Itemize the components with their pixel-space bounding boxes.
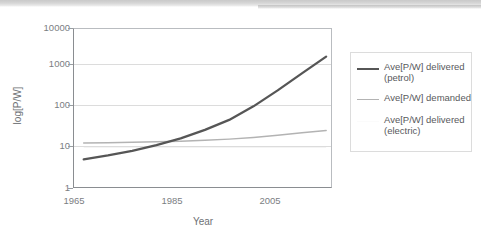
series-line-petrol <box>84 57 326 160</box>
y-tick-mark-1 <box>68 188 73 189</box>
x-tick-label-1965: 1965 <box>44 195 104 206</box>
y-tick-label-10: 10 <box>30 141 70 151</box>
legend-label-demanded: Ave[P/W] demanded <box>384 92 471 103</box>
legend-item-petrol: Ave[P/W] delivered (petrol) <box>357 61 471 83</box>
chart-legend: Ave[P/W] delivered (petrol) Ave[P/W] dem… <box>350 52 472 152</box>
y-axis-title: log[P/W] <box>12 76 23 136</box>
y-tick-label-1000: 1000 <box>30 59 70 69</box>
legend-swatch-petrol-icon <box>357 64 379 74</box>
y-tick-label-100: 100 <box>30 100 70 110</box>
series-line-demanded <box>84 130 326 143</box>
top-edge-band-secondary <box>258 5 481 9</box>
legend-swatch-demanded-icon <box>357 95 379 105</box>
plot-area <box>73 28 332 188</box>
y-tick-label-10000: 10000 <box>30 23 70 33</box>
legend-item-demanded: Ave[P/W] demanded <box>357 92 471 105</box>
x-axis-title: Year <box>143 216 263 227</box>
legend-swatch-electric-icon <box>357 117 379 127</box>
chart-screenshot: 10000 1000 100 10 1 log[P/W] 1965 1985 2… <box>0 0 481 236</box>
legend-label-petrol: Ave[P/W] delivered (petrol) <box>384 61 465 83</box>
legend-item-electric: Ave[P/W] delivered (electric) <box>357 114 471 136</box>
legend-label-electric: Ave[P/W] delivered (electric) <box>384 114 465 136</box>
x-tick-label-2005: 2005 <box>240 195 300 206</box>
y-tick-label-1: 1 <box>30 183 70 193</box>
x-tick-label-1985: 1985 <box>142 195 202 206</box>
series-canvas <box>74 29 331 187</box>
